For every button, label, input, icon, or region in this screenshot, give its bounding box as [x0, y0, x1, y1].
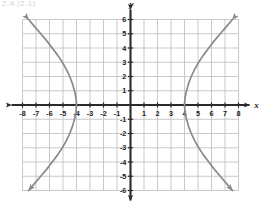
y-tick-label: 2	[122, 72, 126, 81]
x-tick-label: 7	[223, 109, 227, 118]
y-tick-label: 6	[122, 15, 126, 24]
x-tick-label: -6	[46, 109, 52, 118]
x-tick-label: -8	[19, 109, 25, 118]
x-tick-label: 1	[142, 109, 146, 118]
y-tick-label: -6	[120, 186, 126, 195]
y-tick-label: 4	[122, 44, 126, 53]
x-tick-label: 8	[237, 109, 241, 118]
x-tick-label: -2	[100, 109, 106, 118]
x-tick-label: 6	[210, 109, 214, 118]
y-tick-label: -2	[120, 129, 126, 138]
y-tick-label: 5	[122, 29, 126, 38]
x-tick-label: -5	[60, 109, 66, 118]
axis-titles: xy	[129, 0, 260, 110]
y-axis-title: y	[129, 0, 135, 9]
y-tick-label: 3	[122, 58, 126, 67]
y-tick-label: -3	[120, 143, 126, 152]
x-axis-title: x	[253, 100, 259, 110]
x-tick-label: -7	[33, 109, 39, 118]
y-tick-label: -5	[120, 172, 126, 181]
coordinate-graph-figure: -8-7-6-5-4-3-2-112345678-6-5-4-3-2-11234…	[0, 0, 261, 212]
coordinate-plane-svg: -8-7-6-5-4-3-2-112345678-6-5-4-3-2-11234…	[0, 0, 261, 212]
x-tick-label: -3	[87, 109, 93, 118]
x-tick-label: 2	[156, 109, 160, 118]
y-tick-label: 1	[122, 86, 126, 95]
x-tick-label: 3	[169, 109, 173, 118]
axis-lines	[12, 10, 250, 201]
x-tick-label: 5	[196, 109, 200, 118]
y-tick-label: -4	[120, 158, 126, 167]
y-tick-label: -1	[120, 115, 126, 124]
